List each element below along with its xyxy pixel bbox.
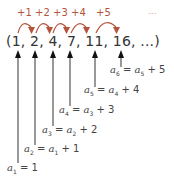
equation-a1: a1 = 1: [7, 162, 38, 175]
increment-label: +3: [53, 7, 68, 18]
equation-a6: a6 = a5 + 5: [110, 64, 165, 77]
increment-label: +1: [17, 7, 32, 18]
increment-label: +2: [35, 7, 50, 18]
term-arrow-heads: [15, 50, 124, 58]
arc-5: [96, 23, 116, 33]
equation-a3: a3 = a2 + 2: [42, 124, 97, 137]
sequence-diagram: +1 +2 +3 +4 +5 ... (1, 2, 4, 7, 11, 16, …: [0, 0, 174, 184]
equation-a5: a5 = a4 + 4: [84, 84, 139, 97]
increment-label: +5: [96, 7, 111, 18]
equation-a4: a4 = a3 + 3: [59, 104, 114, 117]
equation-a2: a2 = a1 + 1: [24, 143, 79, 156]
increment-label: +4: [71, 7, 86, 18]
sequence-text: (1, 2, 4, 7, 11, 16, ...): [6, 33, 160, 49]
increments-ellipsis: ...: [148, 6, 157, 16]
